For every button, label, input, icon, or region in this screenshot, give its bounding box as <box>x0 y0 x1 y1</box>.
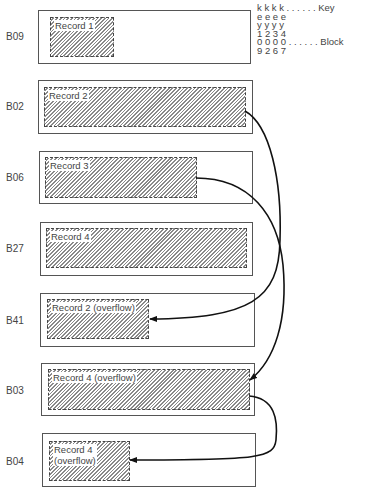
pointer-arrows <box>0 0 367 500</box>
arrow-b03-to-b04 <box>130 396 277 460</box>
arrow-b06-to-b03 <box>196 178 284 380</box>
arrow-b02-to-b41 <box>150 111 280 319</box>
